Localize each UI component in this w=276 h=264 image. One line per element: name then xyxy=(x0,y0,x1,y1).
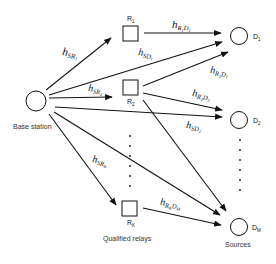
base-station-node xyxy=(26,91,46,111)
edge-bs-d2 xyxy=(55,107,222,117)
relay-ellipsis xyxy=(129,135,131,187)
source-d2-node xyxy=(231,112,248,129)
relay-r1-label: R1 xyxy=(127,15,135,24)
relay-r2-node xyxy=(123,80,138,95)
relay-rk-node xyxy=(122,201,137,216)
source-d2-label: D2 xyxy=(253,117,261,126)
edge-rk-dm xyxy=(143,208,221,225)
label-h-rkdm: hRKDM xyxy=(160,196,182,212)
label-h-sd2: hSD2 xyxy=(186,119,203,134)
relay-network-diagram: Base station R1 R2 RK Qualified relays D… xyxy=(0,0,276,264)
source-d1-node xyxy=(231,28,248,45)
edge-bs-r2 xyxy=(49,97,112,98)
qualified-relays-label: Qualified relays xyxy=(103,235,152,243)
relay-rk-label: RK xyxy=(127,219,135,228)
label-h-sr2: hSR2 xyxy=(88,82,105,97)
relay-r2-label: R2 xyxy=(127,98,135,107)
label-h-srk: hSRK xyxy=(91,153,109,169)
relay-r1-node xyxy=(123,26,138,41)
source-ellipsis xyxy=(239,139,241,191)
label-h-sd1: hSD1 xyxy=(137,46,154,61)
label-h-r2d2: hR2D2 xyxy=(191,87,212,103)
source-dm-node xyxy=(231,219,248,236)
label-h-sr1: hSR1 xyxy=(61,45,79,62)
base-station-label: Base station xyxy=(13,123,52,130)
label-h-r2d1: hR2D1 xyxy=(210,64,229,79)
edge-r2-d2 xyxy=(143,93,222,110)
edge-bs-r1 xyxy=(46,38,111,90)
label-h-r1d1: hR1D1 xyxy=(172,18,191,33)
edge-bs-rk xyxy=(49,114,116,205)
source-dm-label: DM xyxy=(252,224,261,233)
sources-label: Sources xyxy=(225,241,251,248)
source-d1-label: D1 xyxy=(253,33,261,42)
